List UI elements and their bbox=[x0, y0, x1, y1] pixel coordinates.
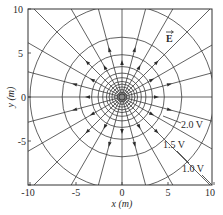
arrowhead-icon bbox=[90, 79, 95, 83]
x-tick-label: 5 bbox=[166, 187, 171, 198]
field-diagram: -10 -5 0 5 10 x (m) 10 5 0 -5 y (m) E 2.… bbox=[0, 0, 223, 215]
label-2v: 2.0 V bbox=[163, 116, 204, 130]
arrowhead-icon bbox=[137, 65, 141, 70]
arrowhead-icon bbox=[167, 107, 172, 110]
arrowhead-icon bbox=[120, 60, 124, 65]
field-lines bbox=[0, 0, 223, 215]
y-tick-label: -5 bbox=[18, 136, 26, 147]
label-1v: 1.0 V bbox=[182, 163, 212, 185]
y-tick-label: 0 bbox=[21, 92, 26, 103]
arrowhead-icon bbox=[120, 129, 124, 134]
arrowhead-icon bbox=[149, 112, 154, 116]
arrowhead-icon bbox=[167, 83, 172, 86]
arrowhead-icon bbox=[85, 95, 90, 99]
arrowhead-icon bbox=[137, 124, 141, 129]
field-line bbox=[122, 0, 223, 97]
arrowhead-icon bbox=[149, 79, 154, 83]
arrowhead-icon bbox=[104, 124, 108, 129]
field-line bbox=[122, 0, 223, 97]
arrowhead-icon bbox=[104, 65, 108, 70]
svg-text:1.5 V: 1.5 V bbox=[163, 139, 186, 150]
field-line bbox=[0, 97, 122, 215]
arrowhead-icon bbox=[72, 107, 77, 110]
x-tick-label: -5 bbox=[72, 187, 80, 198]
x-tick-label: 0 bbox=[120, 187, 125, 198]
arrowhead-icon bbox=[72, 83, 77, 86]
svg-text:1.0 V: 1.0 V bbox=[182, 163, 205, 174]
arrowhead-icon bbox=[132, 142, 135, 147]
arrowhead-icon bbox=[132, 47, 135, 52]
y-tick-label: 5 bbox=[18, 48, 23, 59]
point-charge bbox=[119, 94, 125, 100]
x-tick-label: 10 bbox=[205, 187, 215, 198]
field-vector-label: E bbox=[166, 31, 174, 45]
y-tick-label: 10 bbox=[13, 4, 23, 15]
arrowhead-icon bbox=[108, 142, 111, 147]
arrowhead-icon bbox=[90, 112, 95, 116]
x-axis-label: x (m) bbox=[111, 198, 133, 210]
plot-area bbox=[0, 0, 223, 215]
svg-text:2.0 V: 2.0 V bbox=[181, 119, 204, 130]
svg-text:E: E bbox=[166, 33, 173, 44]
x-tick-label: -10 bbox=[21, 187, 34, 198]
y-axis-label: y (m) bbox=[5, 86, 17, 108]
arrowhead-icon bbox=[108, 47, 111, 52]
arrowhead-icon bbox=[154, 95, 159, 99]
